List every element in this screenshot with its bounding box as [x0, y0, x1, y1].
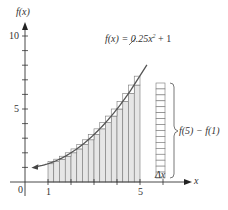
stack-segment — [156, 83, 165, 89]
riemann-bar — [54, 162, 60, 182]
origin-label: 0 — [18, 185, 23, 195]
y-axis-arrow-icon — [22, 22, 28, 30]
stack-segment — [156, 160, 165, 166]
riemann-bar — [94, 135, 100, 182]
function-label-text: f(x) = 0.25x — [105, 33, 153, 44]
x-axis-label: x — [194, 176, 198, 186]
riemann-bar — [111, 116, 117, 182]
x-axis-arrow-icon — [184, 179, 192, 185]
stack-segment — [156, 136, 165, 142]
difference-label: f(5) − f(1) — [179, 126, 220, 136]
stack-segment — [156, 148, 165, 154]
riemann-bar — [123, 101, 129, 182]
riemann-bar — [100, 129, 106, 182]
stack-segment — [156, 154, 165, 160]
riemann-bar — [65, 156, 71, 182]
y-tick-label-10: 10 — [9, 31, 19, 41]
delta-x-label: Δx — [155, 170, 165, 180]
brace — [170, 83, 178, 178]
curve-left-arrow-icon — [31, 164, 38, 170]
riemann-bar — [106, 123, 112, 182]
riemann-bar — [48, 164, 54, 182]
riemann-bar — [134, 85, 140, 182]
riemann-bar — [83, 145, 89, 182]
stack-segment — [156, 95, 165, 101]
stack-segment — [156, 113, 165, 119]
x-tick-label-5: 5 — [138, 187, 143, 197]
riemann-bar — [77, 149, 83, 182]
stack-segment — [156, 131, 165, 137]
riemann-bar — [117, 109, 123, 182]
stack-segment — [156, 89, 165, 95]
riemann-bar — [88, 140, 94, 182]
y-tick-label-5: 5 — [14, 104, 19, 114]
stacked-difference-column — [156, 83, 165, 178]
stack-segment — [156, 107, 165, 113]
x-tick-label-1: 1 — [46, 187, 51, 197]
stack-segment — [156, 119, 165, 125]
riemann-bar — [129, 93, 135, 182]
stack-segment — [156, 101, 165, 107]
stack-segment — [156, 142, 165, 148]
function-label-tail: + 1 — [156, 33, 172, 44]
function-label: f(x) = 0.25x2 + 1 — [105, 33, 171, 44]
riemann-bar — [60, 159, 66, 182]
stack-segment — [156, 125, 165, 131]
y-axis-label: f(x) — [16, 7, 30, 17]
riemann-bar — [71, 153, 77, 182]
